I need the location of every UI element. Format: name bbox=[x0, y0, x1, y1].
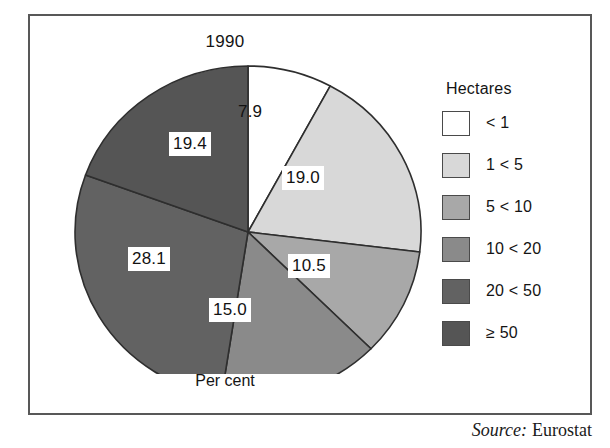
legend-item-label: ≥ 50 bbox=[486, 324, 518, 342]
pie-label-lt1: 7.9 bbox=[234, 100, 266, 124]
legend-item-label: 20 < 50 bbox=[486, 282, 541, 300]
legend-item[interactable]: 20 < 50 bbox=[442, 278, 592, 304]
figure-frame: 1990 7.9 19.0 10.5 15.0 28.1 19.4 Per ce… bbox=[28, 14, 592, 415]
source-note: Source:Eurostat bbox=[472, 420, 592, 441]
legend-item-label: < 1 bbox=[486, 114, 509, 132]
legend-rows: < 11 < 55 < 1010 < 2020 < 50≥ 50 bbox=[442, 110, 592, 346]
legend-item[interactable]: ≥ 50 bbox=[442, 320, 592, 346]
pie-chart: 7.9 19.0 10.5 15.0 28.1 19.4 bbox=[66, 58, 422, 374]
legend-item-label: 5 < 10 bbox=[486, 198, 532, 216]
legend-swatch bbox=[442, 195, 470, 220]
legend-item-label: 1 < 5 bbox=[486, 156, 523, 174]
legend-item[interactable]: 10 < 20 bbox=[442, 236, 592, 262]
legend-swatch bbox=[442, 279, 470, 304]
legend-item[interactable]: < 1 bbox=[442, 110, 592, 136]
pie-label-1to5: 19.0 bbox=[282, 166, 324, 190]
legend-title: Hectares bbox=[446, 80, 592, 98]
legend-item[interactable]: 1 < 5 bbox=[442, 152, 592, 178]
pie-label-5to10: 10.5 bbox=[288, 254, 330, 278]
source-label: Source: bbox=[472, 420, 527, 440]
legend-swatch bbox=[442, 321, 470, 346]
pie-label-20to50: 28.1 bbox=[128, 247, 170, 271]
chart-title: 1990 bbox=[30, 32, 420, 52]
legend-swatch bbox=[442, 153, 470, 178]
legend-item-label: 10 < 20 bbox=[486, 240, 541, 258]
pie-label-10to20: 15.0 bbox=[209, 298, 251, 322]
legend-swatch bbox=[442, 237, 470, 262]
pie-label-ge50: 19.4 bbox=[169, 132, 211, 156]
legend-swatch bbox=[442, 111, 470, 136]
source-value: Eurostat bbox=[532, 420, 592, 440]
legend: Hectares < 11 < 55 < 1010 < 2020 < 50≥ 5… bbox=[442, 80, 592, 362]
legend-item[interactable]: 5 < 10 bbox=[442, 194, 592, 220]
unit-caption: Per cent bbox=[30, 372, 420, 390]
